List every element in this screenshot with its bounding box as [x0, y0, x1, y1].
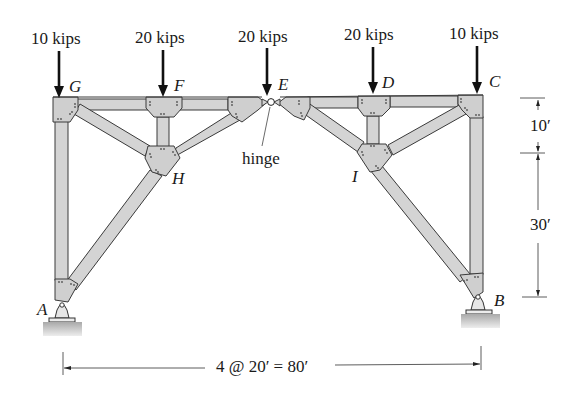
member-FE [180, 99, 228, 110]
hinge-E [262, 99, 280, 106]
node-label-G: G [69, 78, 81, 95]
truss-drawing [0, 0, 582, 404]
dimension-span: 4 @ 20′ = 80′ [216, 358, 308, 375]
node-label-E: E [278, 76, 288, 93]
truss-diagram: 10 kips 20 kips 20 kips 20 kips 10 kips … [0, 0, 582, 404]
load-arrows [54, 46, 482, 98]
load-label-C: 10 kips [449, 25, 499, 42]
load-arrow-D-icon [368, 47, 378, 94]
gusset-B [460, 273, 483, 298]
member-BC [470, 117, 483, 274]
load-arrow-F-icon [158, 50, 168, 97]
node-label-F: F [174, 77, 184, 94]
node-label-D: D [382, 74, 394, 91]
node-label-H: H [172, 170, 184, 187]
gusset-E-right [278, 97, 310, 120]
node-label-A: A [37, 301, 47, 318]
member-DI [367, 116, 379, 144]
member-CI [388, 104, 466, 155]
load-label-F: 20 kips [135, 29, 185, 46]
member-AG [55, 110, 68, 280]
support-A [43, 303, 82, 336]
hinge-label: hinge [242, 150, 280, 167]
dimension-upper-height: 10′ [530, 117, 551, 134]
member-EI [303, 102, 364, 152]
load-label-E: 20 kips [238, 28, 288, 45]
dimension-lower-height: 30′ [530, 216, 551, 233]
load-label-D: 20 kips [344, 26, 394, 43]
load-arrow-E-icon [262, 48, 272, 96]
gusset-G [53, 97, 78, 122]
member-EH [172, 110, 240, 158]
member-ED [308, 97, 358, 108]
gusset-I [357, 144, 392, 172]
right-truss [278, 95, 483, 298]
load-arrow-G-icon [54, 51, 64, 98]
hinge-leader [262, 107, 270, 146]
node-label-C: C [489, 73, 500, 90]
node-label-I: I [352, 168, 358, 185]
load-arrow-C-icon [472, 46, 482, 94]
node-label-B: B [494, 292, 504, 309]
member-DC [390, 96, 458, 107]
member-IB [370, 166, 470, 282]
member-FH [157, 117, 169, 147]
member-GH [74, 104, 150, 156]
load-label-G: 10 kips [31, 30, 81, 47]
member-HA [66, 170, 162, 290]
left-truss [53, 97, 266, 302]
